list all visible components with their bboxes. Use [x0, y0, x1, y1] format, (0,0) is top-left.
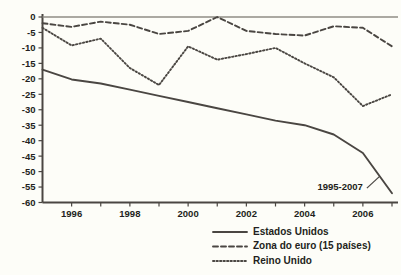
y-tick-label: -5 [27, 27, 36, 38]
y-tick-label: -40 [22, 135, 36, 146]
y-tick-label: -20 [22, 73, 36, 84]
series-line-zona-do-euro-15-pa-ses [43, 17, 393, 46]
y-axis-group: 0-5-10-15-20-25-30-35-40-45-50-55-60 [22, 11, 43, 208]
y-tick-label: -55 [22, 181, 36, 192]
x-tick-label: 2002 [236, 208, 257, 219]
x-tick-label: 2006 [352, 208, 373, 219]
series-line-reino-unido [43, 28, 393, 106]
y-tick-label: -60 [22, 197, 36, 208]
y-tick-label: -35 [22, 120, 36, 131]
x-tick-label: 2004 [294, 208, 316, 219]
y-tick-label: -10 [22, 42, 36, 53]
chart-annotation: 1995-2007 [317, 181, 362, 192]
annotation-leader-line [367, 176, 380, 188]
legend-label: Estados Unidos [253, 226, 329, 237]
series-line-estados-unidos [43, 70, 393, 194]
legend-label: Reino Unido [253, 255, 312, 266]
series-group [43, 17, 393, 193]
chart-canvas: 0-5-10-15-20-25-30-35-40-45-50-55-60 199… [0, 0, 401, 275]
y-tick-label: -15 [22, 58, 36, 69]
legend-label: Zona do euro (15 países) [253, 240, 371, 251]
y-tick-label: -25 [22, 89, 36, 100]
y-tick-label: -45 [22, 151, 36, 162]
line-chart: 0-5-10-15-20-25-30-35-40-45-50-55-60 199… [0, 0, 401, 275]
x-tick-labels: 199619982000200220042006 [61, 208, 373, 219]
x-tick-label: 1998 [119, 208, 140, 219]
y-tick-label: -50 [22, 166, 36, 177]
annotation-group: 1995-2007 [317, 176, 379, 192]
x-tick-label: 1996 [61, 208, 82, 219]
y-tick-label: 0 [30, 11, 35, 22]
chart-legend: Estados UnidosZona do euro (15 países)Re… [213, 226, 371, 266]
y-tick-label: -30 [22, 104, 36, 115]
x-axis-group: 199619982000200220042006 [43, 203, 399, 219]
y-tick-labels: 0-5-10-15-20-25-30-35-40-45-50-55-60 [22, 11, 36, 208]
x-tick-label: 2000 [178, 208, 199, 219]
